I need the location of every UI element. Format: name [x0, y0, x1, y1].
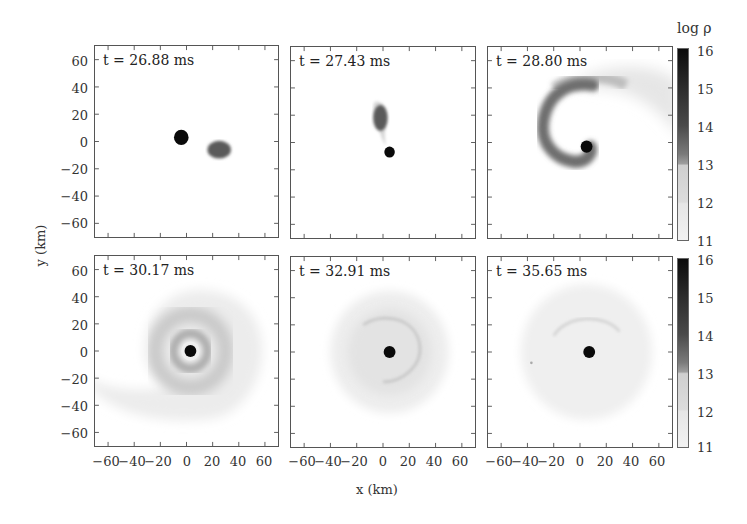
time-label: t = 26.88 ms	[103, 52, 194, 68]
colorbar-tick: 14	[697, 329, 714, 344]
colorbar-tick: 11	[697, 234, 714, 249]
y-tick: −60	[48, 216, 88, 231]
black-hole	[583, 346, 595, 358]
y-tick: −60	[48, 426, 88, 441]
y-tick: 0	[48, 345, 88, 360]
y-tick: −40	[48, 399, 88, 414]
density-plot	[95, 46, 278, 237]
panel-t-26-88: t = 26.88 ms	[94, 45, 279, 238]
colorbar-tick: 16	[697, 253, 714, 268]
colorbar-title: log ρ	[677, 20, 712, 36]
colorbar-tick: 14	[697, 120, 714, 135]
time-label: t = 35.65 ms	[496, 263, 587, 279]
x-tick: 60	[440, 454, 480, 469]
tick-marks	[291, 47, 475, 238]
y-tick: 20	[48, 108, 88, 123]
x-tick: 60	[244, 454, 284, 469]
colorbar-top	[677, 48, 689, 241]
panel-t-27-43: t = 27.43 ms	[290, 46, 476, 239]
colorbar-tick: 16	[697, 44, 714, 59]
y-tick: 0	[48, 135, 88, 150]
panel-t-35-65: t = 35.65 ms	[487, 256, 673, 448]
panel-t-30-17: t = 30.17 ms	[94, 255, 279, 447]
time-label: t = 32.91 ms	[299, 263, 390, 279]
black-hole	[174, 130, 189, 145]
panel-t-28-80: t = 28.80 ms	[487, 46, 673, 239]
y-tick: 40	[48, 81, 88, 96]
time-label: t = 30.17 ms	[103, 262, 194, 278]
colorbar-bottom	[677, 258, 689, 448]
time-label: t = 28.80 ms	[496, 53, 587, 69]
y-tick: −20	[48, 372, 88, 387]
y-tick: 20	[48, 318, 88, 333]
time-label: t = 27.43 ms	[299, 53, 390, 69]
black-hole	[384, 147, 395, 158]
colorbar-tick: 15	[697, 82, 714, 97]
y-tick: 60	[48, 264, 88, 279]
colorbar-tick: 11	[697, 440, 714, 455]
black-hole	[581, 140, 593, 152]
density-plot	[291, 257, 475, 447]
y-axis-label: y (km)	[33, 225, 48, 267]
density-plot	[488, 257, 672, 447]
density-plot	[488, 47, 672, 238]
colorbar-tick: 12	[697, 405, 714, 420]
black-hole	[384, 346, 396, 358]
neutron-star	[373, 105, 387, 131]
neutron-star	[207, 141, 231, 159]
y-tick: 60	[48, 54, 88, 69]
x-tick: 60	[637, 454, 677, 469]
colorbar-tick: 13	[697, 367, 714, 382]
colorbar-tick: 13	[697, 158, 714, 173]
colorbar-tick: 15	[697, 291, 714, 306]
y-tick: −40	[48, 189, 88, 204]
density-plot	[291, 47, 475, 238]
black-hole	[185, 345, 197, 357]
colorbar-tick: 12	[697, 196, 714, 211]
x-axis-label: x (km)	[356, 482, 398, 497]
density-plot	[95, 256, 278, 446]
y-tick: 40	[48, 291, 88, 306]
panel-t-32-91: t = 32.91 ms	[290, 256, 476, 448]
y-tick: −20	[48, 162, 88, 177]
